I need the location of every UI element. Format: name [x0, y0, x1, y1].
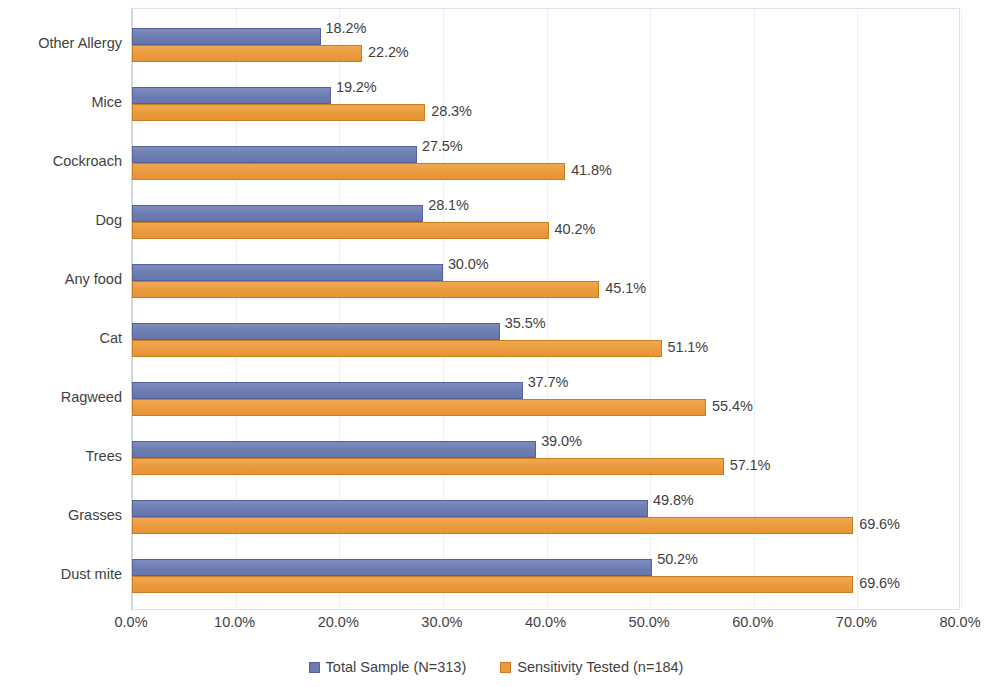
bar-sensitivity-tested — [132, 458, 724, 475]
bar-total-sample — [132, 205, 423, 222]
bar-total-sample — [132, 559, 652, 576]
bar-value-label-total-sample: 37.7% — [528, 374, 569, 390]
bar-value-label-sensitivity-tested: 41.8% — [571, 162, 612, 178]
x-tick-label: 60.0% — [732, 614, 773, 630]
x-tick-label: 80.0% — [939, 614, 980, 630]
plot-area: 18.2%22.2%19.2%28.3%27.5%41.8%28.1%40.2%… — [131, 8, 960, 610]
bar-sensitivity-tested — [132, 222, 549, 239]
bar-sensitivity-tested — [132, 281, 599, 298]
bar-total-sample — [132, 323, 500, 340]
x-tick-label: 20.0% — [318, 614, 359, 630]
bar-sensitivity-tested — [132, 340, 662, 357]
legend-label: Sensitivity Tested (n=184) — [517, 659, 683, 675]
bar-sensitivity-tested — [132, 104, 425, 121]
bar-group: 28.1%40.2% — [132, 199, 959, 258]
category-label: Any food — [2, 271, 122, 287]
bar-value-label-sensitivity-tested: 40.2% — [555, 221, 596, 237]
bar-total-sample — [132, 500, 648, 517]
category-label: Trees — [2, 448, 122, 464]
bar-value-label-total-sample: 27.5% — [422, 138, 463, 154]
bar-group: 35.5%51.1% — [132, 317, 959, 376]
allergy-sensitivity-bar-chart: Other AllergyMiceCockroachDogAny foodCat… — [0, 0, 992, 687]
bar-value-label-sensitivity-tested: 69.6% — [859, 575, 900, 591]
bar-sensitivity-tested — [132, 517, 853, 534]
bar-sensitivity-tested — [132, 163, 565, 180]
bar-group: 27.5%41.8% — [132, 140, 959, 199]
legend-label: Total Sample (N=313) — [326, 659, 467, 675]
bar-sensitivity-tested — [132, 576, 853, 593]
x-tick-label: 40.0% — [525, 614, 566, 630]
bar-value-label-sensitivity-tested: 55.4% — [712, 398, 753, 414]
bar-value-label-total-sample: 28.1% — [428, 197, 469, 213]
bar-value-label-sensitivity-tested: 57.1% — [730, 457, 771, 473]
legend-swatch-icon — [500, 662, 511, 673]
bar-value-label-total-sample: 18.2% — [326, 20, 367, 36]
x-tick-label: 70.0% — [836, 614, 877, 630]
category-label: Dust mite — [2, 566, 122, 582]
bar-sensitivity-tested — [132, 45, 362, 62]
category-label: Cockroach — [2, 153, 122, 169]
bar-group: 18.2%22.2% — [132, 22, 959, 81]
bar-total-sample — [132, 146, 417, 163]
bar-value-label-sensitivity-tested: 45.1% — [605, 280, 646, 296]
bar-value-label-sensitivity-tested: 28.3% — [431, 103, 472, 119]
bar-value-label-total-sample: 35.5% — [505, 315, 546, 331]
x-axis-tick-labels: 0.0%10.0%20.0%30.0%40.0%50.0%60.0%70.0%8… — [0, 614, 992, 640]
bar-value-label-sensitivity-tested: 22.2% — [368, 44, 409, 60]
bar-group: 49.8%69.6% — [132, 494, 959, 553]
x-tick-label: 50.0% — [629, 614, 670, 630]
bar-value-label-sensitivity-tested: 51.1% — [668, 339, 709, 355]
bar-total-sample — [132, 264, 443, 281]
legend-swatch-icon — [309, 662, 320, 673]
bar-total-sample — [132, 87, 331, 104]
x-tick-label: 0.0% — [114, 614, 147, 630]
bar-value-label-total-sample: 49.8% — [653, 492, 694, 508]
bar-total-sample — [132, 441, 536, 458]
category-axis: Other AllergyMiceCockroachDogAny foodCat… — [0, 8, 122, 610]
bar-group: 19.2%28.3% — [132, 81, 959, 140]
x-tick-label: 10.0% — [214, 614, 255, 630]
category-label: Ragweed — [2, 389, 122, 405]
category-label: Grasses — [2, 507, 122, 523]
bar-value-label-total-sample: 39.0% — [541, 433, 582, 449]
category-label: Dog — [2, 212, 122, 228]
bar-group: 50.2%69.6% — [132, 553, 959, 612]
category-label: Mice — [2, 94, 122, 110]
bar-total-sample — [132, 382, 523, 399]
legend-item[interactable]: Sensitivity Tested (n=184) — [500, 659, 683, 675]
bar-group: 37.7%55.4% — [132, 376, 959, 435]
bar-sensitivity-tested — [132, 399, 706, 416]
bar-total-sample — [132, 28, 321, 45]
category-label: Other Allergy — [2, 35, 122, 51]
category-label: Cat — [2, 330, 122, 346]
bar-group: 39.0%57.1% — [132, 435, 959, 494]
gridline-80pct — [961, 9, 962, 609]
bar-value-label-total-sample: 50.2% — [657, 551, 698, 567]
legend-item[interactable]: Total Sample (N=313) — [309, 659, 467, 675]
bar-value-label-total-sample: 19.2% — [336, 79, 377, 95]
chart-legend: Total Sample (N=313)Sensitivity Tested (… — [0, 655, 992, 679]
bar-group: 30.0%45.1% — [132, 258, 959, 317]
bar-value-label-total-sample: 30.0% — [448, 256, 489, 272]
x-tick-label: 30.0% — [421, 614, 462, 630]
bar-value-label-sensitivity-tested: 69.6% — [859, 516, 900, 532]
